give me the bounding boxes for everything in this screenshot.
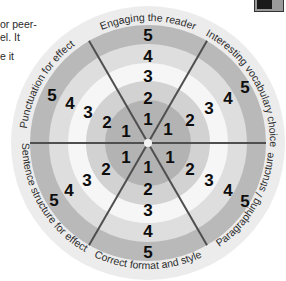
hub <box>144 139 152 147</box>
svg-text:4: 4 <box>143 222 153 241</box>
svg-text:4: 4 <box>223 89 233 108</box>
svg-text:1: 1 <box>121 122 130 141</box>
svg-text:2: 2 <box>185 160 194 179</box>
svg-text:1: 1 <box>165 148 174 167</box>
svg-text:1: 1 <box>143 158 152 177</box>
assessment-wheel: Engaging the reader Interesting vocabula… <box>0 0 286 281</box>
svg-text:3: 3 <box>143 201 152 220</box>
svg-text:5: 5 <box>143 26 152 45</box>
svg-text:4: 4 <box>223 181 233 200</box>
svg-text:2: 2 <box>101 160 110 179</box>
svg-text:4: 4 <box>64 181 74 200</box>
svg-text:2: 2 <box>143 180 152 199</box>
svg-text:4: 4 <box>143 47 153 66</box>
svg-text:1: 1 <box>163 120 172 139</box>
svg-text:5: 5 <box>240 192 249 211</box>
svg-text:5: 5 <box>240 78 249 97</box>
svg-text:2: 2 <box>102 113 111 132</box>
svg-text:2: 2 <box>185 111 194 130</box>
svg-text:5: 5 <box>47 86 56 105</box>
svg-text:3: 3 <box>204 99 213 118</box>
svg-text:3: 3 <box>143 67 152 86</box>
svg-text:3: 3 <box>83 103 92 122</box>
svg-text:3: 3 <box>82 171 91 190</box>
svg-text:3: 3 <box>204 171 213 190</box>
svg-text:5: 5 <box>143 243 152 262</box>
svg-text:5: 5 <box>49 191 58 210</box>
svg-text:4: 4 <box>65 94 75 113</box>
svg-text:1: 1 <box>143 110 152 129</box>
svg-text:1: 1 <box>121 148 130 167</box>
svg-text:2: 2 <box>143 89 152 108</box>
